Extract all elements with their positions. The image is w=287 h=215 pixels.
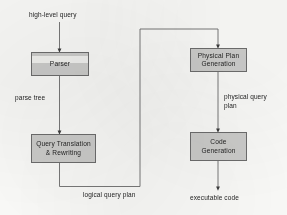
node-code-generation[interactable]: Code Generation (190, 132, 247, 161)
edge-label-physical-query-plan: physical query plan (224, 93, 267, 110)
node-query-translation-rewriting-label: Query Translation & Rewriting (34, 140, 93, 157)
edge-label-high-level-query: high-level query (29, 11, 77, 20)
edge-label-logical-query-plan: logical query plan (83, 191, 135, 200)
node-parser[interactable]: Parser (31, 52, 89, 76)
node-parser-label: Parser (48, 60, 72, 68)
node-code-generation-label: Code Generation (199, 138, 237, 155)
edge-label-parse-tree: parse tree (15, 94, 45, 103)
diagram-canvas: Parser Query Translation & Rewriting Phy… (0, 0, 287, 215)
node-physical-plan-generation-label: Physical Plan Generation (196, 52, 242, 69)
edge-label-executable-code: executable code (190, 194, 239, 203)
node-query-translation-rewriting[interactable]: Query Translation & Rewriting (31, 134, 96, 163)
node-physical-plan-generation[interactable]: Physical Plan Generation (190, 48, 247, 72)
